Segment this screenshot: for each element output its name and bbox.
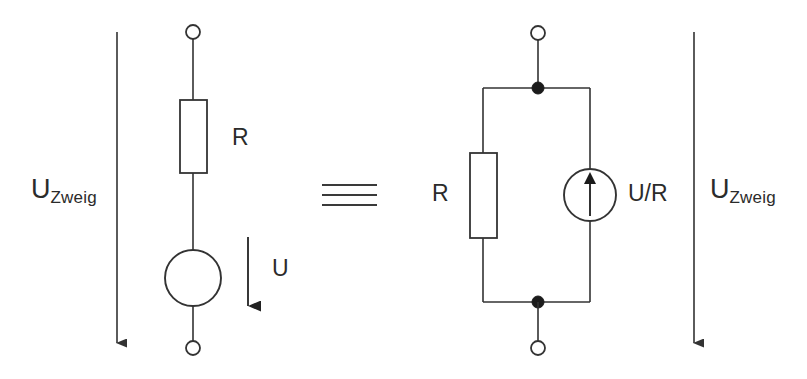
right-circuit-group [470,26,616,355]
right-resistor-icon [470,153,497,238]
right-branch-voltage-label-subscript: Zweig [730,188,776,207]
right-bottom-open-terminal-icon [531,341,545,355]
equivalence-symbol-icon [322,185,377,205]
right-branch-voltage-label: UZweig [710,176,776,203]
right-resistor-label: R [432,182,449,205]
left-circuit-group [165,25,221,355]
left-branch-voltage-label: UZweig [31,176,97,203]
right-top-open-terminal-icon [531,26,545,40]
source-voltage-label: U [272,257,289,280]
left-branch-voltage-label-base: U [31,174,51,204]
left-top-open-terminal-icon [186,25,200,39]
circuit-diagram-canvas: UZweig R U R U/R UZweig [0,0,807,379]
left-branch-voltage-label-subscript: Zweig [51,188,97,207]
left-bottom-open-terminal-icon [186,341,200,355]
current-source-label: U/R [628,182,668,205]
left-resistor-label: R [232,126,249,149]
right-branch-voltage-label-base: U [710,174,730,204]
voltage-source-icon [165,250,221,306]
circuit-diagram-svg [0,0,807,379]
top-junction-node-icon [532,82,544,94]
left-resistor-icon [180,100,207,173]
